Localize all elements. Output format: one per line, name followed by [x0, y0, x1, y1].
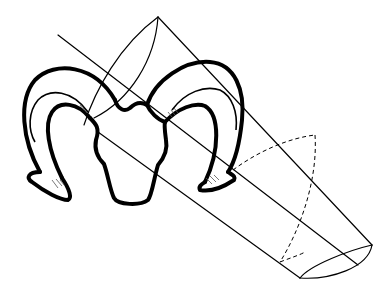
right-horn-tip: [199, 172, 234, 191]
left-horn-inner: [48, 105, 90, 178]
cylinder-top-edge: [158, 17, 372, 245]
hidden-section-bottom: [280, 252, 305, 262]
right-horn-inner: [165, 105, 216, 182]
cylinder-right-end-front: [300, 245, 372, 278]
right-horn-outer: [147, 62, 243, 172]
hidden-section-right: [280, 135, 315, 262]
diagram-canvas: [0, 0, 385, 298]
left-horn-inner-ridge: [30, 93, 88, 142]
head-outline: [90, 118, 167, 204]
right-horn: [147, 62, 243, 191]
ram-head: [90, 100, 167, 204]
ram-cylinder-diagram: [0, 0, 385, 298]
left-horn-tip: [29, 172, 70, 200]
cylinder: [84, 17, 372, 278]
left-horn-outer: [24, 68, 115, 172]
